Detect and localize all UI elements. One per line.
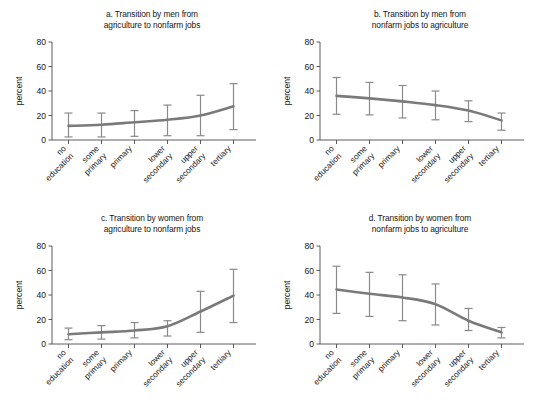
y-tick-label: 80	[304, 37, 314, 47]
figure-multi-panel-chart: a. Transition by men from agriculture to…	[0, 0, 536, 408]
panel-a-plot: 020406080percentnoeducationsomeprimarypr…	[0, 0, 268, 204]
y-tick-label: 40	[304, 290, 314, 300]
y-tick-label: 20	[36, 111, 46, 121]
x-tick-label: uppersecondary	[435, 143, 476, 184]
x-tick-label-line: primary	[376, 143, 402, 169]
x-tick-label: lowersecondary	[134, 347, 175, 388]
panel-a: a. Transition by men from agriculture to…	[0, 0, 268, 204]
panel-c: c. Transition by women from agriculture …	[0, 204, 268, 408]
x-tick-label: tertiary	[209, 143, 234, 168]
panel-d: d. Transition by women from nonfarm jobs…	[268, 204, 536, 408]
x-tick-label: lowersecondary	[402, 347, 443, 388]
x-tick-label: someprimary	[75, 347, 109, 381]
x-tick-label-line: tertiary	[477, 347, 502, 372]
y-axis-title: percent	[282, 280, 292, 309]
x-tick-label: someprimary	[75, 143, 109, 177]
x-tick-label-line: primary	[108, 347, 134, 373]
x-tick-label: uppersecondary	[435, 347, 476, 388]
x-tick-label: noeducation	[36, 144, 75, 183]
x-tick-label: primary	[108, 347, 134, 373]
y-tick-label: 80	[304, 241, 314, 251]
y-tick-label: 40	[36, 86, 46, 96]
y-tick-label: 60	[36, 62, 46, 72]
x-tick-label: uppersecondary	[167, 347, 208, 388]
series-line	[69, 106, 234, 126]
series-line	[337, 96, 502, 121]
panel-b: b. Transition by men from nonfarm jobs t…	[268, 0, 536, 204]
x-tick-label: someprimary	[343, 347, 377, 381]
x-tick-label: tertiary	[477, 347, 502, 372]
y-axis-title: percent	[14, 280, 24, 309]
panel-c-plot: 020406080percentnoeducationsomeprimarypr…	[0, 204, 268, 408]
y-tick-label: 20	[304, 315, 314, 325]
x-tick-label: noeducation	[304, 144, 343, 183]
series-line	[69, 296, 234, 335]
x-tick-label: tertiary	[477, 143, 502, 168]
y-tick-label: 60	[304, 62, 314, 72]
panel-d-plot: 020406080percentnoeducationsomeprimarypr…	[268, 204, 536, 408]
x-tick-label: noeducation	[36, 348, 75, 387]
x-tick-label-line: primary	[376, 347, 402, 373]
x-tick-label: noeducation	[304, 348, 343, 387]
x-tick-label: someprimary	[343, 143, 377, 177]
x-tick-label: uppersecondary	[167, 143, 208, 184]
x-tick-label-line: tertiary	[209, 347, 234, 372]
x-tick-label: primary	[376, 143, 402, 169]
y-tick-label: 80	[36, 37, 46, 47]
y-tick-label: 40	[36, 290, 46, 300]
y-tick-label: 0	[309, 339, 314, 349]
error-bar	[164, 321, 172, 336]
y-tick-label: 20	[36, 315, 46, 325]
y-tick-label: 0	[41, 339, 46, 349]
y-tick-label: 40	[304, 86, 314, 96]
x-tick-label-line: tertiary	[209, 143, 234, 168]
y-tick-label: 60	[36, 266, 46, 276]
y-tick-label: 20	[304, 111, 314, 121]
x-tick-label: tertiary	[209, 347, 234, 372]
x-tick-label-line: tertiary	[477, 143, 502, 168]
y-axis-title: percent	[14, 76, 24, 105]
x-tick-label-line: primary	[108, 143, 134, 169]
y-tick-label: 0	[309, 135, 314, 145]
x-tick-label: primary	[108, 143, 134, 169]
x-tick-label: lowersecondary	[134, 143, 175, 184]
x-tick-label: lowersecondary	[402, 143, 443, 184]
series-line	[337, 289, 502, 332]
y-tick-label: 0	[41, 135, 46, 145]
y-axis-title: percent	[282, 76, 292, 105]
panel-b-plot: 020406080percentnoeducationsomeprimarypr…	[268, 0, 536, 204]
y-tick-label: 60	[304, 266, 314, 276]
x-tick-label: primary	[376, 347, 402, 373]
y-tick-label: 80	[36, 241, 46, 251]
